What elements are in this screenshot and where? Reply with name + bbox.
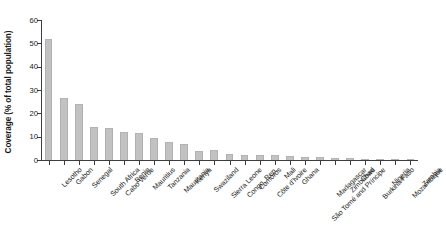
x-tick-mark bbox=[94, 161, 95, 165]
y-axis-line bbox=[41, 20, 42, 160]
bar bbox=[210, 150, 218, 160]
x-tick-mark bbox=[260, 161, 261, 165]
bar bbox=[286, 156, 294, 160]
y-tick-label: 10 bbox=[18, 131, 38, 142]
x-tick-mark bbox=[275, 161, 276, 165]
bar bbox=[301, 157, 309, 161]
y-tick-label: 50 bbox=[18, 38, 38, 49]
x-tick-mark bbox=[350, 161, 351, 165]
bar bbox=[376, 159, 384, 160]
bar bbox=[60, 98, 68, 160]
y-tick-label: 40 bbox=[18, 61, 38, 72]
bar bbox=[316, 157, 324, 160]
y-axis-title: Coverage (% of total population) bbox=[2, 12, 16, 172]
x-tick-mark bbox=[169, 161, 170, 165]
bar bbox=[226, 154, 234, 160]
bar bbox=[90, 127, 98, 160]
x-tick-mark bbox=[184, 161, 185, 165]
bar bbox=[45, 39, 53, 160]
x-tick-mark bbox=[49, 161, 50, 165]
bar bbox=[120, 132, 128, 160]
bar bbox=[195, 151, 203, 160]
y-tick-label: 20 bbox=[18, 108, 38, 119]
x-tick-mark bbox=[214, 161, 215, 165]
bar bbox=[105, 128, 113, 160]
bar bbox=[241, 155, 249, 160]
x-tick-mark bbox=[380, 161, 381, 165]
x-tick-label: Zambia bbox=[421, 166, 444, 189]
bar bbox=[150, 138, 158, 160]
y-tick-label: 0 bbox=[18, 155, 38, 166]
x-tick-mark bbox=[230, 161, 231, 165]
x-tick-mark bbox=[139, 161, 140, 165]
x-tick-mark bbox=[79, 161, 80, 165]
bar bbox=[271, 155, 279, 160]
bar bbox=[180, 144, 188, 160]
x-tick-mark bbox=[335, 161, 336, 165]
x-tick-mark bbox=[64, 161, 65, 165]
bar bbox=[391, 159, 399, 160]
y-axis-title-container: Coverage (% of total population) bbox=[0, 18, 18, 166]
x-tick-mark bbox=[320, 161, 321, 165]
x-tick-mark bbox=[395, 161, 396, 165]
x-tick-label: Kenya bbox=[194, 166, 214, 186]
x-tick-mark bbox=[365, 161, 366, 165]
bar bbox=[256, 155, 264, 160]
x-tick-mark bbox=[154, 161, 155, 165]
plot-area: 0102030405060 bbox=[41, 20, 418, 160]
y-tick-label: 60 bbox=[18, 15, 38, 26]
x-tick-mark bbox=[290, 161, 291, 165]
x-tick-mark bbox=[199, 161, 200, 165]
bar bbox=[165, 142, 173, 160]
x-tick-mark bbox=[245, 161, 246, 165]
bar bbox=[407, 159, 415, 160]
x-tick-mark bbox=[410, 161, 411, 165]
x-tick-label: Senegal bbox=[90, 166, 115, 191]
x-tick-mark bbox=[305, 161, 306, 165]
x-tick-mark bbox=[124, 161, 125, 165]
bar bbox=[135, 133, 143, 160]
x-tick-mark bbox=[109, 161, 110, 165]
bar bbox=[346, 158, 354, 160]
bar bbox=[331, 158, 339, 160]
x-axis-tick-labels: LesothoGabonSenegalSouth AfricaCabo Verd… bbox=[41, 166, 418, 246]
bar bbox=[75, 104, 83, 160]
bar bbox=[361, 159, 369, 160]
y-tick-label: 30 bbox=[18, 85, 38, 96]
